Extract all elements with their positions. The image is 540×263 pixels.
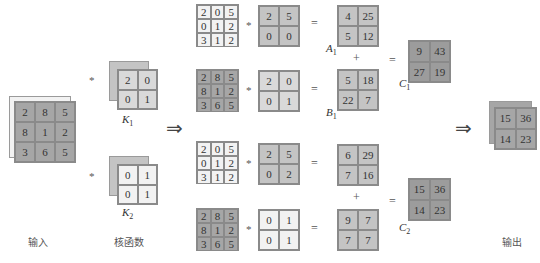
cell: 14 — [495, 129, 516, 150]
cell: 5 — [224, 237, 238, 251]
label-k2: K2 — [122, 206, 133, 221]
cell: 0 — [259, 91, 279, 111]
label-k1: K1 — [122, 113, 133, 128]
cell: 5 — [55, 102, 75, 122]
cell: 5 — [224, 5, 238, 19]
cell: 1 — [279, 230, 299, 250]
cell: 6 — [211, 237, 225, 251]
cell: 19 — [430, 62, 451, 83]
output-caption: 输出 — [502, 234, 522, 249]
cell: 2 — [197, 209, 211, 223]
cell: 5 — [224, 98, 238, 112]
plus-sign: + — [353, 51, 360, 66]
cell: 5 — [224, 209, 238, 223]
cell: 7 — [338, 165, 358, 185]
cell: 4 — [338, 6, 358, 26]
implies-arrow: ⇒ — [166, 116, 183, 140]
cell: 0 — [118, 165, 138, 185]
cell: 5 — [224, 70, 238, 84]
row1-kernel: 2 0 0 1 — [258, 70, 300, 112]
cell: 8 — [211, 70, 225, 84]
cell: 1 — [279, 210, 299, 230]
cell: 43 — [430, 41, 451, 62]
cell: 5 — [338, 26, 358, 46]
cell: 0 — [279, 71, 299, 91]
cell: 0 — [211, 5, 225, 19]
cell: 36 — [430, 179, 451, 200]
cell: 2 — [224, 19, 238, 33]
row1-input: 2 8 5 8 1 2 3 6 5 — [196, 69, 239, 112]
cell: 23 — [516, 129, 537, 150]
cell: 5 — [279, 144, 299, 164]
cell: 2 — [197, 5, 211, 19]
input-caption: 输入 — [28, 234, 48, 249]
cell: 1 — [211, 84, 225, 98]
cell: 8 — [197, 84, 211, 98]
cell: 5 — [224, 142, 238, 156]
kernel-k2-front: 0 1 0 1 — [117, 164, 158, 205]
cell: 27 — [409, 62, 430, 83]
cell: 8 — [211, 209, 225, 223]
cell: 7 — [338, 230, 358, 250]
cell: 9 — [338, 210, 358, 230]
cell: 3 — [197, 170, 211, 184]
row0-result: 4 25 5 12 — [337, 5, 379, 47]
cell: 2 — [197, 70, 211, 84]
row3-kernel: 0 1 0 1 — [258, 209, 300, 251]
conv-operator: * — [246, 223, 252, 235]
cell: 22 — [338, 90, 358, 110]
cell: 6 — [338, 145, 358, 165]
cell: 1 — [211, 170, 225, 184]
cell: 2 — [259, 144, 279, 164]
cell: 9 — [409, 41, 430, 62]
cell: 6 — [35, 142, 55, 162]
cell: 23 — [430, 200, 451, 221]
row2-input: 2 0 5 0 1 2 3 1 2 — [196, 141, 239, 184]
cell: 12 — [358, 26, 378, 46]
cell: 1 — [211, 19, 225, 33]
row3-input: 2 8 5 8 1 2 3 6 5 — [196, 208, 239, 251]
cell: 2 — [55, 122, 75, 142]
label-b1: B1 — [326, 106, 337, 121]
cell: 15 — [495, 108, 516, 129]
conv-operator: * — [246, 84, 252, 96]
cell: 7 — [358, 210, 378, 230]
equals-sign: = — [311, 156, 318, 171]
cell: 0 — [197, 156, 211, 170]
cell: 7 — [358, 90, 378, 110]
cell: 1 — [211, 223, 225, 237]
cell: 7 — [358, 230, 378, 250]
cell: 0 — [197, 19, 211, 33]
cell: 1 — [279, 91, 299, 111]
equals-sign: = — [311, 16, 318, 31]
cell: 5 — [338, 70, 358, 90]
cell: 29 — [358, 145, 378, 165]
cell: 1 — [138, 185, 158, 205]
cell: 2 — [224, 156, 238, 170]
cell: 2 — [279, 164, 299, 184]
implies-arrow: ⇒ — [455, 116, 472, 140]
cell: 15 — [409, 179, 430, 200]
plus-sign: + — [353, 190, 360, 205]
cell: 2 — [259, 6, 279, 26]
cell: 0 — [259, 210, 279, 230]
equals-sign: = — [311, 82, 318, 97]
cell: 16 — [358, 165, 378, 185]
sum-c1: 9 43 27 19 — [408, 40, 451, 83]
cell: 1 — [35, 122, 55, 142]
cell: 2 — [224, 223, 238, 237]
conv-operator: * — [89, 74, 95, 86]
cell: 3 — [197, 33, 211, 47]
row0-input: 2 0 5 0 1 2 3 1 2 — [196, 4, 239, 47]
row0-kernel: 2 5 0 0 — [258, 5, 300, 47]
equals-sign: = — [389, 194, 396, 209]
row1-result: 5 18 22 7 — [337, 69, 379, 111]
cell: 8 — [197, 223, 211, 237]
cell: 2 — [224, 84, 238, 98]
cell: 0 — [279, 26, 299, 46]
cell: 14 — [409, 200, 430, 221]
row2-result: 6 29 7 16 — [337, 144, 379, 186]
kernel-k1-front: 2 0 0 1 — [117, 69, 158, 110]
cell: 0 — [259, 26, 279, 46]
cell: 2 — [224, 170, 238, 184]
